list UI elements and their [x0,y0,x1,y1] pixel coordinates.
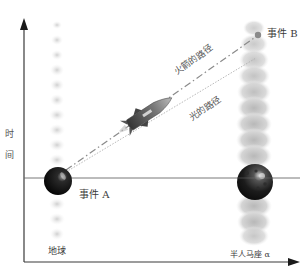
event-b-label: 事件 B [267,29,298,39]
x-axis-arrowhead [288,258,300,266]
event-a-label: 事件 A [79,190,109,200]
light-path-line [66,58,256,172]
alpha-centauri-worldline [236,20,272,246]
rocket-icon [114,89,178,141]
spacetime-diagram [0,0,305,274]
earth-sphere [44,167,72,195]
y-axis-label-char-2: 间 [5,151,14,160]
alpha-centauri-sphere [237,164,273,200]
y-axis-arrowhead [20,18,28,30]
earth-worldline [49,21,65,240]
earth-label: 地球 [48,247,66,256]
alpha-centauri-label: 半人马座 α [230,251,270,259]
event-b-dot [255,32,261,38]
y-axis-label-char-1: 时 [5,130,14,139]
